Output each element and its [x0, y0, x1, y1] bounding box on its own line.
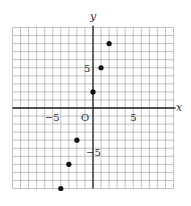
- axis-labels: x y O: [81, 10, 183, 123]
- origin-label: O: [81, 112, 89, 123]
- x-axis-label: x: [176, 101, 183, 114]
- data-point: [107, 41, 112, 46]
- y-tick-label: 5: [84, 63, 90, 74]
- x-tick-label: 5: [130, 112, 136, 123]
- data-point: [98, 65, 103, 70]
- data-point: [58, 186, 63, 191]
- data-point: [74, 138, 79, 143]
- data-point: [66, 162, 71, 167]
- coordinate-plane: x y O −555−5: [0, 0, 191, 206]
- data-point: [90, 89, 95, 94]
- y-tick-label: −5: [86, 147, 101, 158]
- y-axis-label: y: [89, 10, 97, 23]
- tick-labels: −555−5: [45, 63, 137, 159]
- x-tick-label: −5: [45, 112, 60, 123]
